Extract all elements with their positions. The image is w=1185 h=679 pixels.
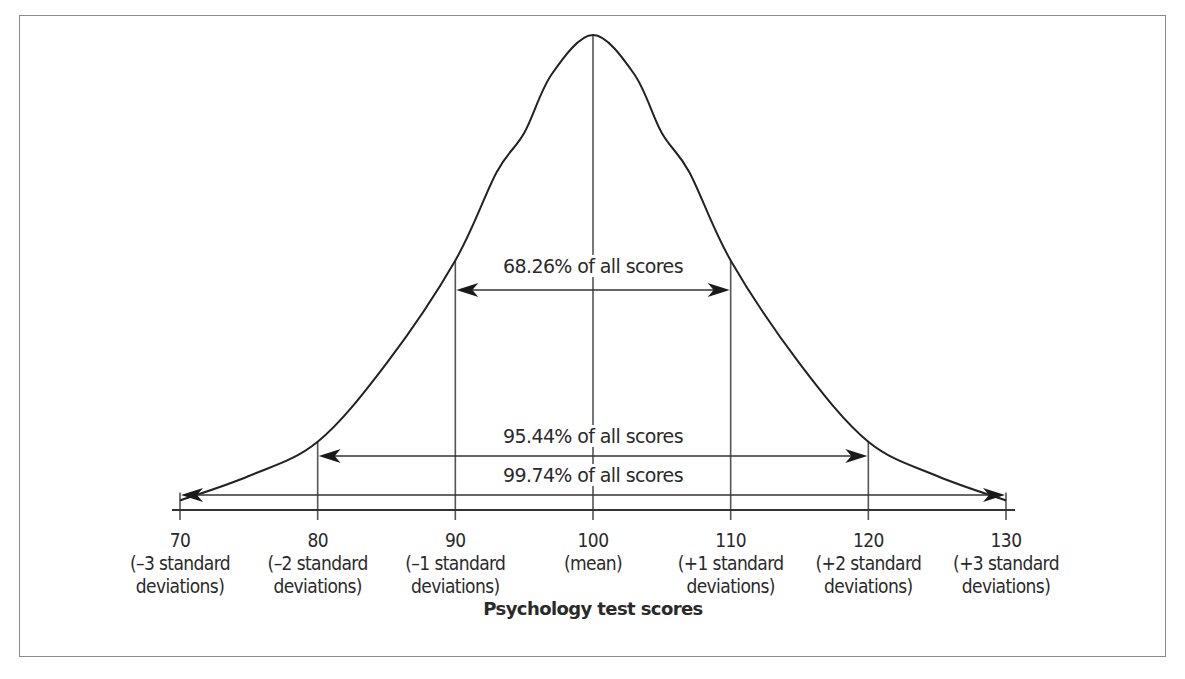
x-axis-title: Psychology test scores: [483, 598, 702, 619]
tick-label-line2: (–3 standard: [130, 552, 230, 575]
tick-label-line3: deviations): [405, 575, 505, 598]
tick-label-130: 130(+3 standarddeviations): [953, 529, 1059, 598]
tick-label-line1: 130: [953, 529, 1059, 552]
tick-label-line2: (–1 standard: [405, 552, 505, 575]
tick-label-80: 80(–2 standarddeviations): [268, 529, 368, 598]
tick-label-line2: (–2 standard: [268, 552, 368, 575]
std-dev-lines: [180, 35, 1006, 520]
tick-label-line1: 110: [678, 529, 784, 552]
tick-label-line2: (+1 standard: [678, 552, 784, 575]
tick-label-110: 110(+1 standarddeviations): [678, 529, 784, 598]
tick-label-line2: (+3 standard: [953, 552, 1059, 575]
tick-label-line3: deviations): [268, 575, 368, 598]
tick-label-line2: (+2 standard: [815, 552, 921, 575]
tick-label-line1: 80: [268, 529, 368, 552]
tick-label-line1: 70: [130, 529, 230, 552]
tick-label-line3: deviations): [130, 575, 230, 598]
tick-label-line3: deviations): [815, 575, 921, 598]
tick-label-line3: deviations): [678, 575, 784, 598]
tick-label-line3: deviations): [953, 575, 1059, 598]
tick-label-line3: [564, 575, 622, 598]
range-label: 99.74% of all scores: [501, 464, 685, 486]
tick-label-120: 120(+2 standarddeviations): [815, 529, 921, 598]
tick-label-line2: (mean): [564, 552, 622, 575]
tick-label-line1: 120: [815, 529, 921, 552]
tick-label-90: 90(–1 standarddeviations): [405, 529, 505, 598]
range-label: 68.26% of all scores: [501, 255, 685, 277]
tick-label-line1: 90: [405, 529, 505, 552]
range-label: 95.44% of all scores: [501, 425, 685, 447]
tick-label-line1: 100: [564, 529, 622, 552]
tick-label-70: 70(–3 standarddeviations): [130, 529, 230, 598]
tick-label-100: 100(mean): [564, 529, 622, 598]
